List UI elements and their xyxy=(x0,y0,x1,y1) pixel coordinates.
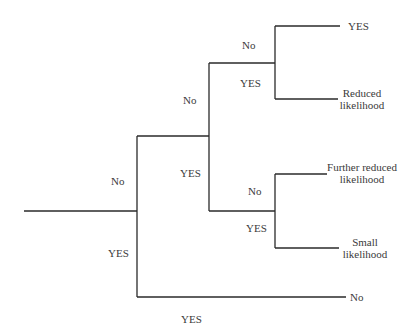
leaf-further-reduced-likelihood: Further reduced likelihood xyxy=(326,161,398,185)
edge-label-n2-no: No xyxy=(242,39,255,51)
leaf-text-line: Further reduced xyxy=(326,161,398,173)
edge-label-n1-no: No xyxy=(183,94,196,106)
leaf-no: No xyxy=(350,291,363,303)
leaf-text-line: likelihood xyxy=(326,173,398,185)
decision-tree: No YES No YES No YES No YES YES YES Redu… xyxy=(0,0,414,335)
leaf-text-line: likelihood xyxy=(340,248,390,260)
edge-label-bottom-yes: YES xyxy=(181,313,202,325)
edge-label-root-yes: YES xyxy=(108,247,129,259)
leaf-text-line: likelihood xyxy=(336,99,388,111)
leaf-text-line: Reduced xyxy=(336,87,388,99)
edge-label-root-no: No xyxy=(111,175,124,187)
leaf-yes: YES xyxy=(348,20,369,32)
edge-label-n3-no: No xyxy=(248,185,261,197)
leaf-small-likelihood: Small likelihood xyxy=(340,236,390,260)
leaf-text-line: Small xyxy=(340,236,390,248)
edge-label-n2-yes: YES xyxy=(240,77,261,89)
edge-label-n3-yes: YES xyxy=(246,222,267,234)
edge-label-n1-yes: YES xyxy=(180,167,201,179)
leaf-reduced-likelihood: Reduced likelihood xyxy=(336,87,388,111)
